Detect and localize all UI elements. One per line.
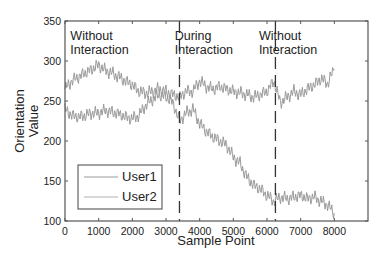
phase-annotation-3-line-1: Without <box>259 29 302 43</box>
phase-annotation-3-line-2: Interaction <box>259 43 317 57</box>
y-tick-label: 150 <box>43 175 61 187</box>
y-tick-label: 300 <box>43 55 61 67</box>
x-tick-label: 0 <box>62 225 68 237</box>
phase-annotations: WithoutInteractionDuringInteractionWitho… <box>70 29 317 57</box>
x-tick-label: 2000 <box>121 225 145 237</box>
x-tick-label: 3000 <box>154 225 178 237</box>
phase-annotation-1-line-1: Without <box>70 29 113 43</box>
line-chart: 010002000300040005000600070008000 100150… <box>0 0 383 267</box>
y-axis-title-line1: Orientation <box>12 89 27 153</box>
x-tick-label: 7000 <box>289 225 313 237</box>
legend-label-user2: User2 <box>122 189 157 204</box>
x-tick-label: 1000 <box>87 225 111 237</box>
y-tick-label: 250 <box>43 95 61 107</box>
phase-annotation-1-line-2: Interaction <box>70 43 128 57</box>
phase-annotation-2-line-1: During <box>175 29 212 43</box>
x-axis-title: Sample Point <box>177 233 255 248</box>
y-axis-title-line2: Value <box>26 105 41 137</box>
y-tick-label: 100 <box>43 215 61 227</box>
y-tick-label: 200 <box>43 135 61 147</box>
series-line-user1 <box>65 60 334 108</box>
legend: User1 User2 <box>78 165 162 209</box>
y-tick-label: 350 <box>43 15 61 27</box>
legend-label-user1: User1 <box>122 169 157 184</box>
x-tick-label: 8000 <box>323 225 347 237</box>
y-axis-title: Orientation Value <box>12 89 41 153</box>
phase-annotation-2-line-2: Interaction <box>175 43 233 57</box>
y-tick-labels: 100150200250300350 <box>43 15 61 227</box>
x-tick-label: 6000 <box>255 225 279 237</box>
